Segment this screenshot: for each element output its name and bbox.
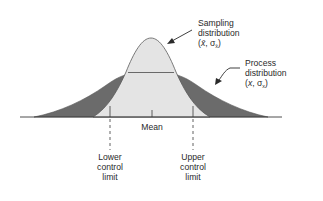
- lower-control-limit-label: Lower control limit: [85, 152, 135, 182]
- lcl-line1: Lower: [85, 152, 135, 162]
- ucl-line1: Upper: [168, 152, 218, 162]
- ucl-line3: limit: [168, 172, 218, 182]
- upper-control-limit-label: Upper control limit: [168, 152, 218, 182]
- mean-label-text: Mean: [141, 122, 163, 132]
- sampling-arrow-head-icon: [167, 38, 175, 44]
- sampling-distribution-label: Sampling distribution (x̄, σx̄): [198, 18, 240, 51]
- process-distribution-label: Process distribution (x, σx): [245, 58, 287, 91]
- lcl-line3: limit: [85, 172, 135, 182]
- paren: ): [265, 78, 268, 88]
- lcl-line2: control: [85, 162, 135, 172]
- distribution-diagram: [0, 0, 323, 201]
- sampling-distribution-curve: [93, 38, 210, 117]
- sampling-label-line1: Sampling: [198, 18, 240, 28]
- sampling-label-params: (x̄, σx̄): [198, 38, 240, 51]
- sigma-symbol: , σ: [252, 78, 262, 88]
- mean-label: Mean: [132, 122, 172, 132]
- sampling-label-line2: distribution: [198, 28, 240, 38]
- process-label-line2: distribution: [245, 68, 287, 78]
- process-label-params: (x, σx): [245, 78, 287, 91]
- process-arrow-line: [219, 68, 240, 80]
- sigma-symbol: , σ: [205, 38, 215, 48]
- process-label-line1: Process: [245, 58, 287, 68]
- sampling-arrow-line: [172, 30, 192, 41]
- paren: ): [218, 38, 221, 48]
- process-arrow-head-icon: [215, 78, 222, 85]
- ucl-line2: control: [168, 162, 218, 172]
